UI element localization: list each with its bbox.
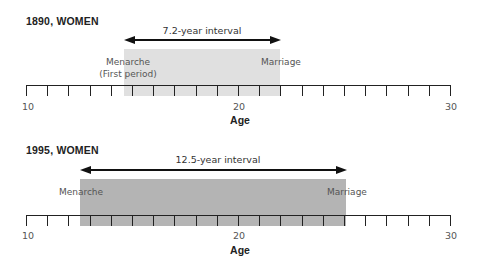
tick-label-30: 30 [445, 101, 457, 112]
menarche-label-line2: (First period) [88, 68, 168, 80]
interval-label: 12.5-year interval [168, 154, 268, 165]
interval-box [80, 179, 346, 226]
interval-arrow [130, 39, 272, 41]
menarche-label-line1: Menarche [88, 56, 168, 68]
menarche-label: Menarche [56, 186, 106, 198]
tick-label-10: 10 [22, 230, 34, 241]
tick-label-20: 20 [233, 230, 245, 241]
panel-1995: 1995, WOMEN 12.5-year interval Menarche … [0, 136, 480, 272]
arrow-right-icon [336, 166, 347, 174]
arrow-left-icon [80, 166, 91, 174]
marriage-label: Marriage [326, 186, 368, 198]
marriage-label: Marriage [260, 56, 302, 68]
interval-arrow [86, 169, 338, 171]
menarche-label: Menarche (First period) [88, 56, 168, 80]
arrow-right-icon [270, 36, 281, 44]
tick-label-30: 30 [445, 230, 457, 241]
arrow-left-icon [124, 36, 135, 44]
tick-label-20: 20 [233, 101, 245, 112]
interval-label: 7.2-year interval [160, 25, 244, 36]
axis-title: Age [230, 114, 250, 126]
panel-title: 1995, WOMEN [26, 144, 99, 156]
axis-title: Age [230, 244, 250, 256]
panel-title: 1890, WOMEN [26, 15, 99, 27]
panel-1890: 1890, WOMEN 7.2-year interval Menarche (… [0, 0, 480, 136]
tick-label-10: 10 [22, 101, 34, 112]
